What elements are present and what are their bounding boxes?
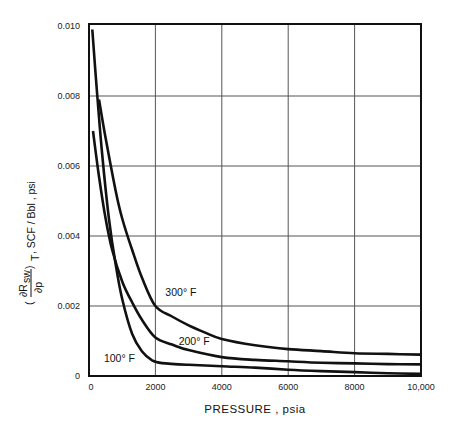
y-title-units: , SCF / Bbl , psi xyxy=(25,181,37,254)
y-tick-label: 0.008 xyxy=(57,91,80,101)
y-tick-label: 0.002 xyxy=(57,301,80,311)
plot-frame xyxy=(89,24,421,376)
y-tick-label: 0.004 xyxy=(57,231,80,241)
curve-label-200f: 200° F xyxy=(179,335,210,347)
grid-lines xyxy=(89,24,421,376)
y-title-right-paren: ) xyxy=(23,266,35,270)
y-tick-label: 0.010 xyxy=(57,21,80,31)
y-title-left-paren: ( xyxy=(23,301,35,305)
x-axis-ticks: 0200040006000800010,000 xyxy=(88,382,434,392)
y-axis-title: ( ∂R sw ∂p ) T , SCF / Bbl , psi xyxy=(17,181,44,305)
curve-100f xyxy=(92,30,421,374)
chart-figure: 0200040006000800010,000 00.0020.0040.006… xyxy=(0,0,458,432)
y-title-numerator: ∂R xyxy=(17,284,29,297)
x-tick-label: 10,000 xyxy=(407,382,435,392)
y-title-outer-sub: T xyxy=(29,254,41,261)
curve-300f xyxy=(99,100,421,355)
curve-label-100f: 100° F xyxy=(104,352,135,364)
y-tick-label: 0.006 xyxy=(57,161,80,171)
curve-label-300f: 300° F xyxy=(165,286,196,298)
y-tick-label: 0 xyxy=(75,371,80,381)
x-tick-label: 6000 xyxy=(278,382,298,392)
x-tick-label: 0 xyxy=(88,382,93,392)
y-title-denominator: ∂p xyxy=(32,282,44,293)
x-axis-title: PRESSURE , psia xyxy=(204,403,306,415)
x-tick-label: 2000 xyxy=(145,382,165,392)
x-tick-label: 8000 xyxy=(345,382,365,392)
curves xyxy=(92,30,421,374)
y-title-numerator-sub: sw xyxy=(20,270,32,283)
x-tick-label: 4000 xyxy=(212,382,232,392)
y-axis-ticks: 00.0020.0040.0060.0080.010 xyxy=(57,21,80,381)
